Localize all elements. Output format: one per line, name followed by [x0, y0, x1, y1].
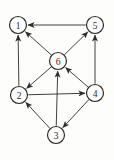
graph-edge-2-to-4: [28, 93, 85, 94]
graph-canvas: 123456: [0, 0, 114, 160]
graph-edge-4-to-6: [66, 68, 88, 87]
graph-node-1: 1: [10, 17, 27, 34]
graph-node-5: 5: [87, 17, 104, 34]
node-label-2: 2: [17, 91, 22, 101]
node-label-3: 3: [54, 131, 59, 141]
graph-node-2: 2: [11, 87, 28, 104]
graph-node-4: 4: [87, 85, 104, 102]
graph-edge-6-to-1: [26, 32, 52, 55]
graph-edge-4-to-3: [63, 100, 89, 128]
node-label-5: 5: [93, 21, 98, 31]
directed-graph-figure: 123456: [0, 0, 114, 160]
node-label-6: 6: [56, 57, 61, 67]
graph-edge-6-to-2: [27, 67, 51, 88]
graph-edge-3-to-6: [56, 71, 57, 126]
graph-edge-2-to-1: [18, 35, 19, 86]
graph-edge-6-to-5: [65, 32, 88, 54]
graph-edge-3-to-2: [26, 102, 50, 128]
node-label-1: 1: [16, 21, 21, 31]
graph-node-3: 3: [48, 127, 65, 144]
graph-node-6: 6: [50, 53, 67, 70]
node-label-4: 4: [93, 89, 98, 99]
edges-layer: [18, 25, 95, 128]
